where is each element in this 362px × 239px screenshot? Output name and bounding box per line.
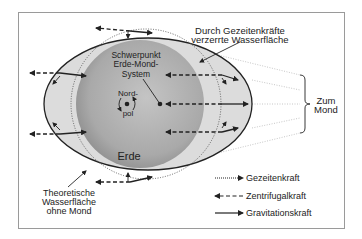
- barycenter-dot: [158, 102, 163, 107]
- north-pole-label-2: pol: [123, 109, 134, 118]
- earth-label: Erde: [117, 150, 140, 162]
- north-pole-dot: [125, 102, 130, 107]
- legend-gravitation-label: Gravitationskraft: [246, 208, 312, 218]
- distorted-water-label-2: verzerrte Wasserfläche: [191, 34, 288, 45]
- theoretical-water-label-3: ohne Mond: [46, 206, 91, 216]
- tidal-forces-diagram: Durch Gezeitenkräfte verzerrte Wasserflä…: [0, 0, 362, 239]
- to-moon-label-2: Mond: [314, 104, 338, 115]
- barycenter-label-3: System: [122, 69, 150, 79]
- legend-tidal-label: Gezeitenkraft: [246, 173, 300, 183]
- legend-centrifugal-label: Zentrifugalkraft: [246, 191, 307, 201]
- barycenter-label-2: Erde-Mond-: [114, 59, 159, 69]
- north-pole-label-1: Nord-: [118, 89, 138, 98]
